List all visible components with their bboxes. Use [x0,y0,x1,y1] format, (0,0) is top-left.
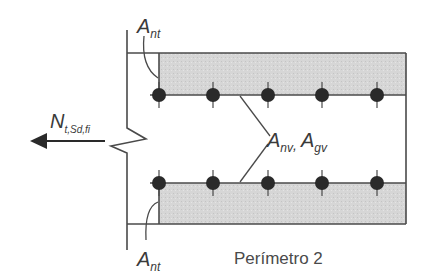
label-ant-top: Ant [136,15,161,41]
diagram-caption: Perímetro 2 [234,249,323,268]
block-shear-diagram: Ant Ant Anv, Agv Nt,Sd,fi Perímetro 2 [0,0,431,279]
label-agv: Agv [300,129,328,155]
label-force: Nt,Sd,fi [50,110,91,135]
break-line [111,30,146,250]
shaded-area-bottom [159,183,406,224]
label-anv: Anv, [266,129,297,155]
label-ant-bottom: Ant [136,248,161,274]
force-arrow [30,133,105,149]
shaded-area-top [159,53,406,95]
